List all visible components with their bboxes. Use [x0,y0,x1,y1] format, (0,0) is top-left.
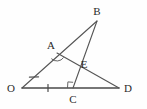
segment-AD [57,53,119,88]
vertex-label-D: D [124,82,132,94]
angle-arc-a-icon [51,58,63,61]
vertex-label-C: C [69,93,76,105]
vertex-label-B: B [93,5,100,17]
vertex-label-E: E [81,58,88,70]
right-angle-marker-c-icon [68,82,74,88]
geometry-canvas: O A B E C D [0,0,147,109]
geometry-figure: O A B E C D [0,0,147,109]
vertex-label-A: A [47,39,55,51]
vertex-label-O: O [7,82,15,94]
